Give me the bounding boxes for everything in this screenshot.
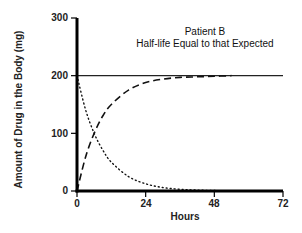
chart-subtitle: Half-life Equal to that Expected <box>110 38 300 50</box>
x-axis-label: Hours <box>150 211 220 222</box>
y-tick-200: 200 <box>38 70 68 81</box>
chart-title: Patient B <box>110 26 300 38</box>
y-tick-300: 300 <box>38 12 68 23</box>
x-tick-48: 48 <box>199 198 229 209</box>
y-axis-label: Amount of Drug in the Body (mg) <box>13 30 24 190</box>
series-layer <box>77 76 249 191</box>
x-tick-0: 0 <box>62 198 92 209</box>
elimination-curve <box>77 76 249 191</box>
y-tick-0: 0 <box>38 185 68 196</box>
accumulation-curve <box>77 76 232 191</box>
x-tick-24: 24 <box>131 198 161 209</box>
y-tick-100: 100 <box>38 128 68 139</box>
x-tick-72: 72 <box>268 198 298 209</box>
